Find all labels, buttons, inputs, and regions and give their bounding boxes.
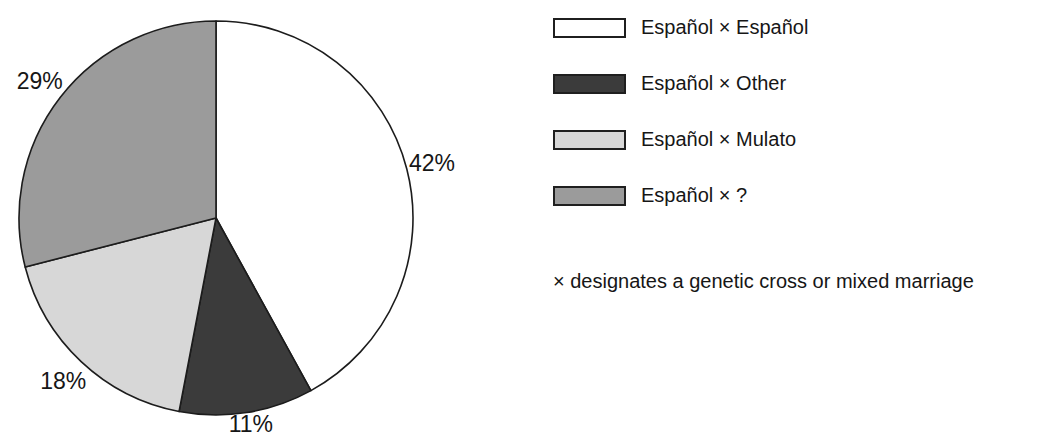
legend-note: × designates a genetic cross or mixed ma… <box>553 270 974 293</box>
legend-item-espanol-unknown: Español × ? <box>553 184 974 207</box>
legend-item-espanol-espanol: Español × Español <box>553 16 974 39</box>
legend-swatch-espanol-other <box>553 74 626 94</box>
slice-label-3: 29% <box>17 68 63 94</box>
pie-chart: 42%11%18%29% <box>0 0 460 439</box>
legend-swatch-espanol-mulato <box>553 130 626 150</box>
legend-swatch-espanol-espanol <box>553 18 626 38</box>
legend-swatch-espanol-unknown <box>553 186 626 206</box>
figure: 42%11%18%29% Español × Español Español ×… <box>0 0 1064 439</box>
legend-item-espanol-other: Español × Other <box>553 72 974 95</box>
legend-label-espanol-mulato: Español × Mulato <box>641 128 796 151</box>
slice-label-0: 42% <box>409 150 455 176</box>
legend-label-espanol-espanol: Español × Español <box>641 16 808 39</box>
legend-item-espanol-mulato: Español × Mulato <box>553 128 974 151</box>
legend-label-espanol-other: Español × Other <box>641 72 786 95</box>
slice-label-1: 11% <box>229 411 273 437</box>
slice-label-2: 18% <box>40 368 86 394</box>
legend-label-espanol-unknown: Español × ? <box>641 184 747 207</box>
legend: Español × Español Español × Other Españo… <box>553 16 974 293</box>
